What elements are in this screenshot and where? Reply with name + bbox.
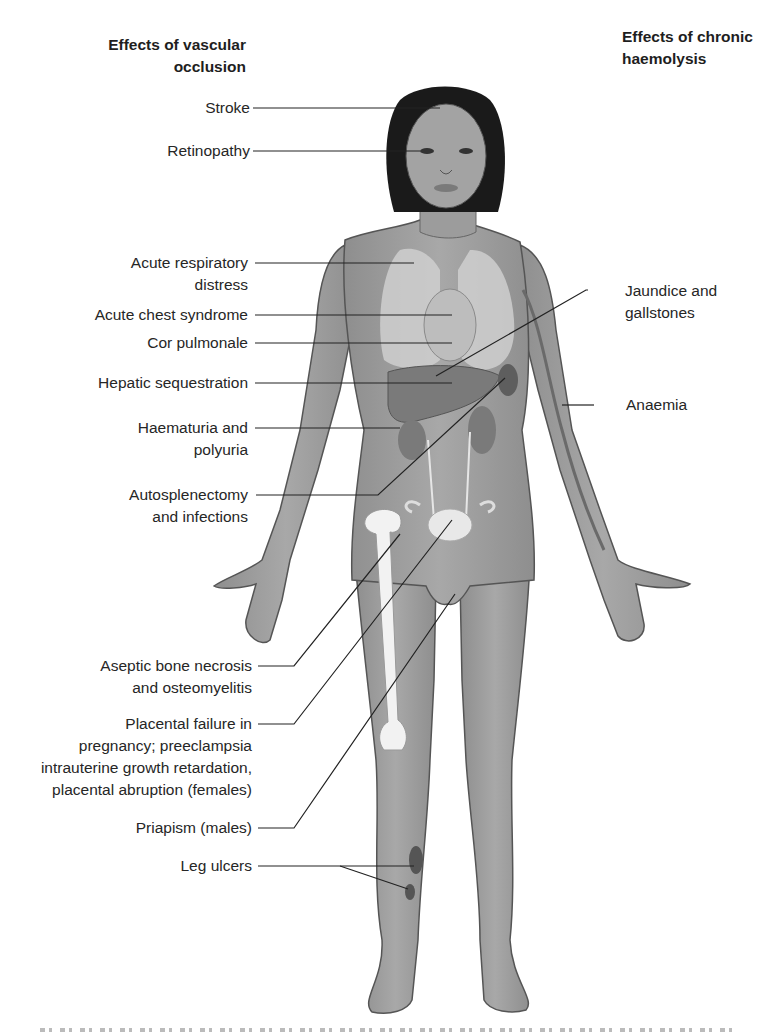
label-line: and osteomyelitis xyxy=(100,677,252,699)
eye-right xyxy=(459,148,473,154)
label-line: gallstones xyxy=(625,302,717,324)
label-line: Aseptic bone necrosis xyxy=(100,655,252,677)
label-cor-pulmonale: Cor pulmonale xyxy=(147,332,248,354)
label-line: and infections xyxy=(129,506,248,528)
label-hepatic-sequestration: Hepatic sequestration xyxy=(98,372,248,394)
label-autosplenectomy: Autosplenectomy and infections xyxy=(129,484,248,528)
label-line: Acute chest syndrome xyxy=(95,304,248,326)
label-leg-ulcers: Leg ulcers xyxy=(180,855,252,877)
legs xyxy=(355,560,530,1013)
label-jaundice-gallstones: Jaundice and gallstones xyxy=(625,280,717,324)
label-line: distress xyxy=(131,274,248,296)
label-line: Placental failure in xyxy=(41,713,252,735)
leg-ulcer-small xyxy=(405,884,415,900)
heart xyxy=(424,289,476,361)
label-line: Retinopathy xyxy=(167,140,250,162)
label-aseptic-bone-necrosis: Aseptic bone necrosis and osteomyelitis xyxy=(100,655,252,699)
label-line: Cor pulmonale xyxy=(147,332,248,354)
label-line: Jaundice and xyxy=(625,280,717,302)
caption-cut-off xyxy=(0,1024,782,1032)
uterus xyxy=(428,509,472,541)
label-line: Priapism (males) xyxy=(136,817,252,839)
label-line: Anaemia xyxy=(626,394,687,416)
label-line: Haematuria and xyxy=(138,417,248,439)
label-retinopathy: Retinopathy xyxy=(167,140,250,162)
mouth xyxy=(434,184,458,192)
eye-left xyxy=(420,148,434,154)
label-priapism: Priapism (males) xyxy=(136,817,252,839)
label-line: Leg ulcers xyxy=(180,855,252,877)
label-line: Acute respiratory xyxy=(131,252,248,274)
label-stroke: Stroke xyxy=(205,97,250,119)
label-haematuria-polyuria: Haematuria and polyuria xyxy=(138,417,248,461)
face xyxy=(406,104,486,208)
body-illustration xyxy=(0,0,782,1032)
kidney-right xyxy=(468,406,496,454)
label-line: Autosplenectomy xyxy=(129,484,248,506)
label-line: Stroke xyxy=(205,97,250,119)
label-line: Hepatic sequestration xyxy=(98,372,248,394)
leg-ulcer-large xyxy=(409,846,423,874)
spleen xyxy=(498,364,518,396)
label-acute-chest-syndrome: Acute chest syndrome xyxy=(95,304,248,326)
label-anaemia: Anaemia xyxy=(626,394,687,416)
label-placental-failure: Placental failure in pregnancy; preeclam… xyxy=(41,713,252,801)
label-line: polyuria xyxy=(138,439,248,461)
label-line: intrauterine growth retardation, xyxy=(41,757,252,779)
label-acute-respiratory-distress: Acute respiratory distress xyxy=(131,252,248,296)
label-line: placental abruption (females) xyxy=(41,779,252,801)
label-line: pregnancy; preeclampsia xyxy=(41,735,252,757)
